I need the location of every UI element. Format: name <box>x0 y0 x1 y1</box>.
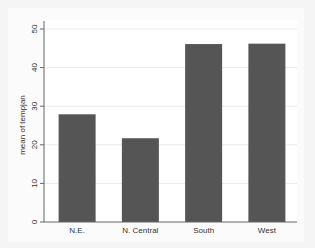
x-tick-label: West <box>258 226 277 235</box>
bar <box>185 44 222 222</box>
y-tick-label: 50 <box>30 24 39 33</box>
bar <box>59 114 96 222</box>
y-tick-label: 30 <box>30 101 39 110</box>
bar <box>122 138 159 222</box>
y-tick-label: 20 <box>30 140 39 149</box>
y-tick-label: 0 <box>30 219 39 224</box>
y-tick-label: 10 <box>30 178 39 187</box>
y-tick-label: 40 <box>30 63 39 72</box>
y-axis-label: mean of tempjan <box>18 95 27 155</box>
chart-canvas: 01020304050 N.E.N. CentralSouthWest mean… <box>0 0 315 248</box>
bar <box>248 44 285 222</box>
x-tick-label: South <box>193 226 214 235</box>
x-tick-label: N.E. <box>69 226 85 235</box>
x-tick-label: N. Central <box>122 226 158 235</box>
bar-chart: 01020304050 N.E.N. CentralSouthWest mean… <box>0 0 315 248</box>
